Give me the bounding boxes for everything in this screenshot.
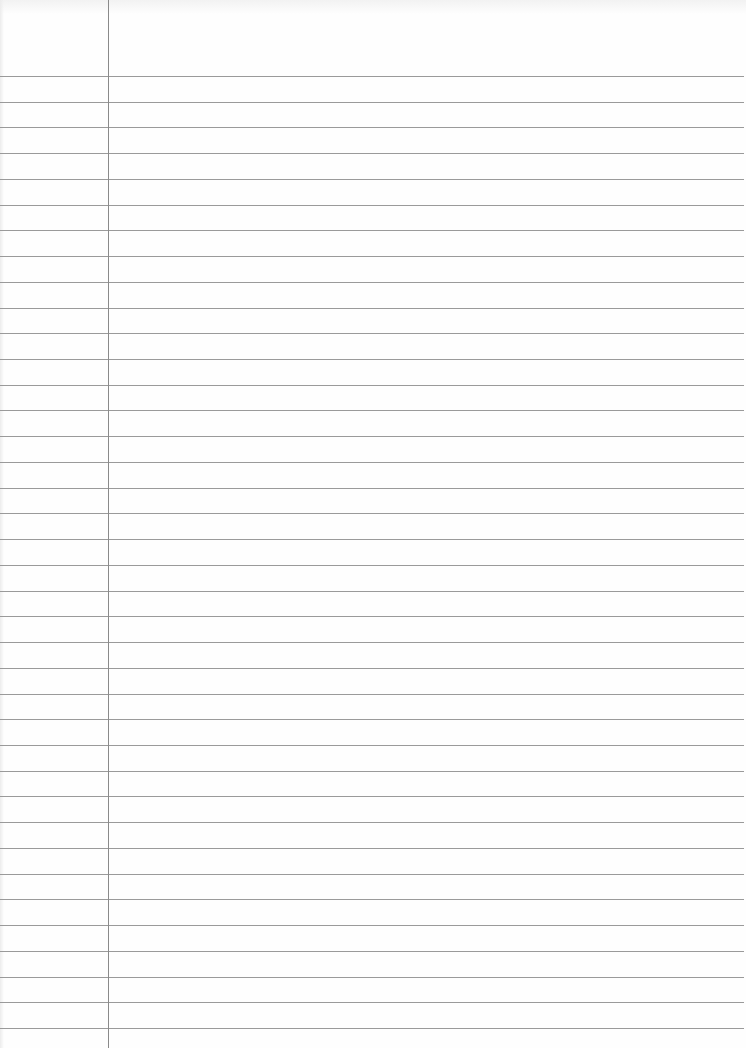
ruled-line bbox=[0, 256, 744, 257]
ruled-line bbox=[0, 1028, 744, 1029]
ruled-line bbox=[0, 359, 744, 360]
ruled-line bbox=[0, 127, 744, 128]
ruled-line bbox=[0, 153, 744, 154]
ruled-line bbox=[0, 668, 744, 669]
ruled-line bbox=[0, 874, 744, 875]
ruled-line bbox=[0, 333, 744, 334]
ruled-line bbox=[0, 771, 744, 772]
ruled-line bbox=[0, 925, 744, 926]
ruled-line bbox=[0, 642, 744, 643]
ruled-line bbox=[0, 616, 744, 617]
ruled-line bbox=[0, 76, 744, 77]
ruled-line bbox=[0, 951, 744, 952]
ruled-line bbox=[0, 462, 744, 463]
page-top-shadow bbox=[0, 0, 746, 14]
ruled-line bbox=[0, 745, 744, 746]
ruled-line bbox=[0, 822, 744, 823]
ruled-line bbox=[0, 513, 744, 514]
ruled-line bbox=[0, 539, 744, 540]
ruled-line bbox=[0, 179, 744, 180]
ruled-line bbox=[0, 694, 744, 695]
ruled-line bbox=[0, 282, 744, 283]
ruled-line bbox=[0, 205, 744, 206]
ruled-line bbox=[0, 102, 744, 103]
ruled-line bbox=[0, 410, 744, 411]
ruled-line bbox=[0, 436, 744, 437]
ruled-line bbox=[0, 488, 744, 489]
ruled-line bbox=[0, 308, 744, 309]
ruled-line bbox=[0, 591, 744, 592]
ruled-line bbox=[0, 796, 744, 797]
ruled-line bbox=[0, 385, 744, 386]
ruled-line bbox=[0, 719, 744, 720]
ruled-line bbox=[0, 899, 744, 900]
page-left-shadow bbox=[0, 0, 4, 1048]
ruled-line bbox=[0, 848, 744, 849]
margin-line bbox=[108, 0, 109, 1048]
notebook-page bbox=[0, 0, 746, 1048]
ruled-line bbox=[0, 1002, 744, 1003]
ruled-line bbox=[0, 230, 744, 231]
ruled-line bbox=[0, 565, 744, 566]
ruled-line bbox=[0, 977, 744, 978]
